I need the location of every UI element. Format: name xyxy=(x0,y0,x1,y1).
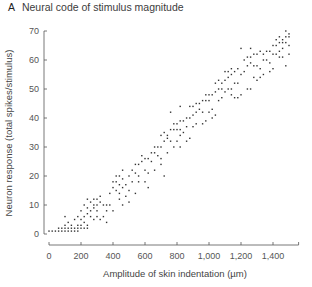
data-point xyxy=(71,228,72,229)
data-point xyxy=(58,230,59,231)
x-tick-label: 1,400 xyxy=(262,251,285,261)
data-point xyxy=(112,187,113,188)
data-point xyxy=(272,68,273,69)
data-point xyxy=(71,230,72,231)
data-point xyxy=(112,210,113,211)
data-point xyxy=(151,161,152,162)
data-point xyxy=(96,204,97,205)
data-point xyxy=(196,112,197,113)
data-point xyxy=(253,65,254,66)
data-point xyxy=(256,80,257,81)
data-point xyxy=(253,77,254,78)
data-point xyxy=(128,175,129,176)
data-point xyxy=(167,138,168,139)
data-point xyxy=(250,88,251,89)
data-point xyxy=(96,210,97,211)
data-point xyxy=(74,230,75,231)
data-point xyxy=(231,68,232,69)
y-tick-label: 0 xyxy=(34,229,39,239)
data-point xyxy=(148,172,149,173)
data-point xyxy=(68,222,69,223)
data-point xyxy=(167,135,168,136)
data-point xyxy=(170,112,171,113)
data-point xyxy=(141,161,142,162)
data-point xyxy=(132,170,133,171)
data-point xyxy=(84,216,85,217)
data-point xyxy=(100,196,101,197)
data-point xyxy=(122,187,123,188)
data-point xyxy=(215,91,216,92)
data-point xyxy=(221,88,222,89)
data-point xyxy=(164,132,165,133)
data-point xyxy=(279,56,280,57)
data-point xyxy=(160,135,161,136)
data-point xyxy=(276,54,277,55)
data-point xyxy=(148,187,149,188)
data-point xyxy=(215,114,216,115)
data-point xyxy=(128,201,129,202)
data-point xyxy=(180,135,181,136)
y-tick-label: 50 xyxy=(29,84,39,94)
data-point xyxy=(164,175,165,176)
data-point xyxy=(285,42,286,43)
data-point xyxy=(180,120,181,121)
data-point xyxy=(144,158,145,159)
data-point xyxy=(52,230,53,231)
data-point xyxy=(212,94,213,95)
data-point xyxy=(157,146,158,147)
data-point xyxy=(173,123,174,124)
y-tick-label: 30 xyxy=(29,142,39,152)
data-point xyxy=(202,123,203,124)
data-point xyxy=(269,51,270,52)
data-point xyxy=(84,204,85,205)
data-point xyxy=(269,71,270,72)
data-point xyxy=(285,30,286,31)
data-point xyxy=(186,117,187,118)
data-point xyxy=(288,33,289,34)
data-point xyxy=(279,42,280,43)
data-point xyxy=(112,181,113,182)
data-point xyxy=(87,228,88,229)
data-point xyxy=(173,146,174,147)
x-tick-label: 800 xyxy=(169,251,184,261)
data-point xyxy=(231,74,232,75)
data-point xyxy=(132,181,133,182)
data-point xyxy=(119,193,120,194)
data-point xyxy=(100,219,101,220)
data-point xyxy=(212,109,213,110)
data-point xyxy=(173,129,174,130)
data-point xyxy=(263,74,264,75)
data-point xyxy=(253,54,254,55)
data-point xyxy=(58,228,59,229)
data-point xyxy=(189,138,190,139)
data-point xyxy=(228,88,229,89)
data-point xyxy=(64,230,65,231)
data-point xyxy=(90,201,91,202)
data-point xyxy=(234,71,235,72)
data-point xyxy=(154,146,155,147)
data-point xyxy=(74,228,75,229)
data-point xyxy=(100,201,101,202)
data-point xyxy=(205,120,206,121)
data-point xyxy=(64,216,65,217)
data-point xyxy=(116,181,117,182)
data-point xyxy=(192,106,193,107)
data-point xyxy=(144,181,145,182)
data-point xyxy=(269,62,270,63)
data-point xyxy=(141,155,142,156)
data-point xyxy=(202,112,203,113)
data-point xyxy=(135,193,136,194)
data-point xyxy=(138,164,139,165)
data-point xyxy=(90,216,91,217)
data-point xyxy=(93,199,94,200)
data-points xyxy=(48,30,289,231)
data-point xyxy=(122,178,123,179)
data-point xyxy=(180,106,181,107)
data-point xyxy=(167,152,168,153)
data-point xyxy=(128,190,129,191)
y-tick-label: 40 xyxy=(29,113,39,123)
scatter-chart: 010203040506070 02004006008001,0001,2001… xyxy=(0,0,312,287)
data-point xyxy=(160,164,161,165)
data-point xyxy=(77,216,78,217)
data-point xyxy=(240,74,241,75)
